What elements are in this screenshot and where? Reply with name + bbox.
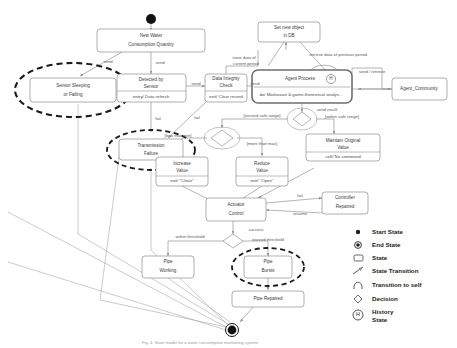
start-state[interactable]	[146, 14, 156, 24]
state-set-new-object-in-db[interactable]: Set new object in DB	[258, 22, 320, 42]
state-label: Value	[176, 168, 188, 173]
transition-label-within-threshold: within threshold	[175, 234, 205, 239]
state-label: Working	[160, 268, 177, 273]
edge-increase-to-actuator	[182, 186, 210, 200]
state-transition-icon	[353, 267, 363, 274]
state-label: Transmission	[137, 143, 165, 148]
transition-label-fail: fail	[297, 193, 302, 198]
legend-label-state-transition: State Transition	[372, 267, 419, 274]
state-new-water-consumption[interactable]: New Water Consumption Quantity	[97, 29, 205, 52]
figure-caption: Fig. 4. State model for a water consumpt…	[142, 340, 259, 345]
legend-label-history-state: History	[372, 308, 394, 315]
legend-label-start-state: Start State	[372, 228, 404, 235]
state-pipe-repaired[interactable]: Pipe Repaired	[232, 291, 304, 307]
state-label: Value	[256, 168, 268, 173]
edge-decision2-to-pipeworking	[168, 241, 224, 256]
state-reduce-value[interactable]: Reduce Value exit/ "Open"	[236, 157, 288, 186]
transition-label-exceed-threshold: exceed threshold	[252, 237, 285, 242]
history-state-glyph: H	[356, 311, 360, 317]
state-activity: entry/ Data refresh	[133, 94, 170, 99]
transition-label-fail: fail	[155, 116, 160, 121]
composite-state-agent-process[interactable]: Agent Process do/ Markovian & game-theor…	[252, 70, 352, 103]
transition-label-store: current period	[233, 61, 260, 66]
transition-label-send-retrieve: send / retrieve	[359, 69, 386, 74]
decision-icon	[354, 295, 362, 303]
transition-label-resume: resume	[293, 211, 308, 216]
legend-label-state: State	[372, 254, 388, 261]
decision-threshold[interactable]	[223, 234, 243, 248]
decision-safe-range[interactable]	[293, 112, 311, 126]
state-label: Detected by	[139, 77, 164, 82]
transition-label-send-result: send result	[317, 107, 338, 112]
state-pipe-bursts[interactable]: Pipe Bursts	[244, 256, 292, 278]
state-agent-community[interactable]: Agent_Community	[392, 78, 447, 100]
state-activity: exit/ Clear record	[209, 94, 243, 99]
edge-decision-to-leftdecision	[222, 119, 288, 128]
transition-label-success: success	[248, 227, 263, 232]
state-label: Actuator	[227, 202, 245, 207]
state-label: Pipe	[263, 259, 273, 264]
state-increase-value[interactable]: Increase Value exit/ "Close"	[156, 157, 208, 186]
state-label: Control	[229, 211, 244, 216]
state-label: New Water	[140, 33, 163, 38]
state-label: Set new object	[274, 25, 305, 30]
transition-label-less-than-min: [less than min]	[165, 133, 192, 138]
state-label: Pipe Repaired	[253, 296, 283, 301]
state-pipe-working[interactable]: Pipe Working	[142, 256, 194, 278]
history-state-glyph: H	[329, 76, 332, 81]
state-detected-by-sensor[interactable]: Detected by Sensor entry/ Data refresh	[117, 74, 186, 102]
diagram-root: New Water Consumption Quantity Sensor Sl…	[0, 0, 457, 348]
end-state[interactable]	[226, 324, 239, 337]
state-activity: exit/ "Open"	[250, 178, 274, 183]
legend-label-transition-to-self: Transition to self	[372, 281, 422, 288]
state-label: Consumption Quantity	[128, 42, 174, 47]
state-label: Reduce	[254, 161, 270, 166]
state-label: Repaired	[336, 204, 355, 209]
state-controller-repaired[interactable]: Controller Repaired	[322, 192, 368, 214]
transition-label-send: send	[103, 59, 113, 64]
state-label: Controller	[335, 195, 355, 200]
edge-transmission-to-end	[151, 168, 228, 325]
legend-label-history-state: State	[372, 316, 388, 323]
state-label: Agent Process	[285, 76, 316, 81]
state-diagram-canvas: New Water Consumption Quantity Sensor Sl…	[0, 0, 457, 348]
transition-label-within-safe: [within safe range]	[325, 114, 359, 119]
transition-label-exceed-safe: [exceed safe range]	[244, 113, 281, 118]
state-label: Failure	[144, 151, 158, 156]
state-label: Check	[219, 83, 233, 88]
transition-label-send: send	[155, 60, 165, 65]
state-actuator-control[interactable]: Actuator Control	[206, 198, 266, 221]
edge-decision-to-maintain	[316, 119, 334, 134]
state-activity: do/ Markovian & game-theoretical analys.…	[259, 92, 342, 97]
start-state-icon	[356, 230, 360, 234]
decision-min-max[interactable]	[211, 130, 233, 146]
state-label: Sensor	[144, 84, 159, 89]
state-data-integrity-check[interactable]: Data Integrity Check exit/ Clear record	[205, 74, 247, 102]
edge-pipeworking-to-end	[168, 278, 230, 322]
state-activity: self/ No command	[325, 154, 361, 159]
transition-label-send: send	[191, 81, 201, 86]
legend-label-decision: Decision	[372, 295, 398, 302]
transition-label-send: send	[250, 81, 260, 86]
legend: Start State End State State State Transi…	[353, 228, 422, 323]
transition-label-retrieve-prev: retrieve data of previous period	[309, 52, 367, 57]
edge-far-left-to-end	[8, 212, 228, 328]
state-label: Bursts	[261, 268, 275, 273]
edge-setdb-down	[268, 42, 284, 66]
state-icon	[354, 255, 363, 261]
legend-label-end-state: End State	[372, 241, 401, 248]
state-label: Maintain Original	[326, 138, 360, 143]
state-label: Value	[337, 145, 349, 150]
state-label: or Failing	[64, 92, 83, 97]
transition-label-fail: fail	[194, 115, 199, 120]
state-sensor-sleeping-or-failing[interactable]: Sensor Sleeping or Failing	[30, 78, 116, 102]
transition-label-more-than-max: [more than max]	[247, 141, 277, 146]
state-label: in DB	[283, 33, 294, 38]
edge-actuator-to-controller	[266, 198, 322, 203]
state-label: Data Integrity	[212, 76, 240, 81]
transition-label-store: store data of	[232, 55, 256, 60]
state-maintain-original-value[interactable]: Maintain Original Value self/ No command	[306, 134, 380, 161]
transition-to-self-icon	[354, 282, 362, 289]
state-label: Pipe	[163, 259, 173, 264]
state-label: Agent_Community	[400, 86, 438, 91]
